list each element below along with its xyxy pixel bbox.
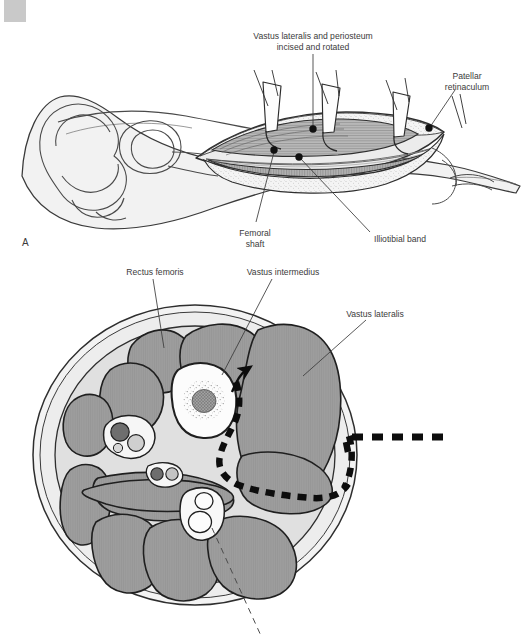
label-vastus-lateralis-periosteum: Vastus lateralis and periosteum incised … <box>232 31 394 52</box>
neurovascular-bundle-posterior <box>180 488 224 540</box>
label-rectus-femoris: Rectus femoris <box>113 267 197 278</box>
dot-patellar-retinaculum <box>425 124 432 131</box>
nerve-sciatic <box>189 511 212 532</box>
panel-b-illustration <box>33 279 446 638</box>
panel-letter-a: A <box>22 237 29 248</box>
figure-page: SECTION IV • PEDIATRIC KNEE <box>0 0 525 638</box>
label-vastus-lateralis: Vastus lateralis <box>332 309 418 320</box>
label-vastus-intermedius: Vastus intermedius <box>231 267 335 278</box>
vessel-femoral-vein <box>111 423 129 441</box>
label-illiotibial-band: Illiotibial band <box>374 234 464 245</box>
neurovascular-bundle-anterior <box>103 415 155 458</box>
dot-vastus-lateralis-periosteum <box>309 125 316 132</box>
label-patellar-retinaculum: Patellar retinaculum <box>428 71 506 92</box>
vessel-perforator-1 <box>151 468 163 480</box>
retractor-4 <box>452 94 466 128</box>
femur-marrow <box>192 390 216 413</box>
nerve-femoral <box>113 443 122 452</box>
label-femoral-shaft: Femoral shaft <box>228 228 282 249</box>
figure-artwork <box>0 0 525 638</box>
vessel-popliteal-artery <box>195 493 213 510</box>
vessel-femoral-artery <box>128 435 145 452</box>
vessel-perforator-2 <box>166 468 178 480</box>
femur <box>172 363 237 438</box>
perforating-vessels <box>146 463 182 487</box>
dot-illiotibial-band <box>295 153 302 160</box>
dot-femoral-shaft <box>270 146 277 153</box>
surgical-wound <box>196 112 444 193</box>
